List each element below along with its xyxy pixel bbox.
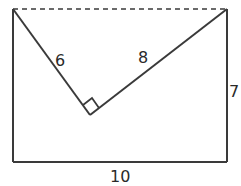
height-label: 7 — [229, 82, 239, 101]
right-leg-label: 8 — [138, 48, 148, 67]
triangle-right-leg — [90, 9, 227, 115]
right-angle-marker — [83, 98, 99, 108]
left-leg-label: 6 — [55, 51, 65, 70]
triangle-left-leg — [13, 9, 90, 115]
width-label: 10 — [110, 167, 130, 186]
geometry-diagram: 6 8 7 10 — [0, 0, 241, 186]
